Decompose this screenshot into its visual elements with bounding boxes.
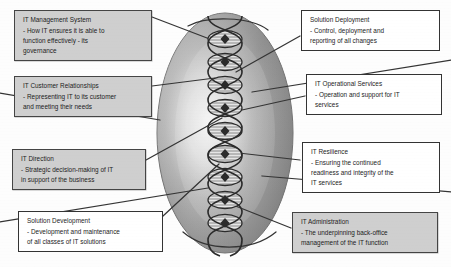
callout-title: Solution Development (27, 216, 157, 226)
callout-description: - Ensuring the continued readiness and i… (311, 158, 434, 188)
callout-title: IT Resilience (311, 147, 434, 157)
callout-description: - How IT ensures it is able to function … (23, 26, 146, 56)
callout-description: - The underpinning back-office managemen… (301, 228, 432, 248)
callout-description: - Representing IT to its customer and me… (23, 92, 146, 112)
callout-it-resilience[interactable]: IT Resilience - Ensuring the continued r… (302, 142, 440, 193)
callout-title: IT Administration (301, 217, 432, 227)
callout-description: - Development and maintenance of all cla… (27, 227, 157, 247)
callout-solution-development[interactable]: Solution Development - Development and m… (18, 211, 163, 252)
callout-it-administration[interactable]: IT Administration - The underpinning bac… (292, 212, 438, 253)
callout-title: IT Management System (23, 15, 146, 25)
callout-description: - Strategic decision-making of IT in sup… (21, 165, 140, 185)
callout-title: IT Direction (21, 154, 140, 164)
callout-description: - Control, deployment and reporting of a… (310, 26, 434, 46)
callout-description: - Operation and support for IT services (315, 90, 436, 110)
callout-title: IT Operational Services (315, 79, 436, 89)
callout-it-customer-relationships[interactable]: IT Customer Relationships - Representing… (14, 76, 152, 117)
callout-it-operational-services[interactable]: IT Operational Services - Operation and … (306, 74, 442, 115)
diagram-canvas: IT Management System - How IT ensures it… (0, 0, 451, 267)
callout-it-direction[interactable]: IT Direction - Strategic decision-making… (12, 149, 146, 190)
callout-solution-deployment[interactable]: Solution Deployment - Control, deploymen… (301, 10, 440, 51)
callout-title: IT Customer Relationships (23, 81, 146, 91)
callout-title: Solution Deployment (310, 15, 434, 25)
callout-it-management-system[interactable]: IT Management System - How IT ensures it… (14, 10, 152, 61)
